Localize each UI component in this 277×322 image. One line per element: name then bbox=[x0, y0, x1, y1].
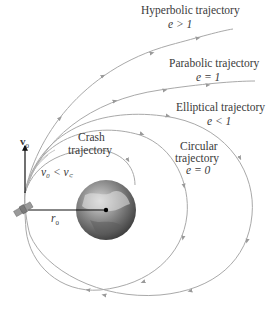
hyperbolic-label: Hyperbolic trajectory bbox=[141, 4, 240, 17]
elliptical-trajectory bbox=[25, 114, 253, 295]
elliptical-label: Elliptical trajectory bbox=[176, 101, 265, 114]
elliptical-condition: e < 1 bbox=[207, 115, 231, 128]
earth-center-dot bbox=[104, 208, 108, 212]
trajectory-curves bbox=[0, 0, 277, 322]
radius-label: r0 bbox=[51, 212, 59, 230]
parabolic-condition: e = 1 bbox=[196, 71, 220, 84]
orbital-trajectories-diagram: Hyperbolic trajectory e > 1 Parabolic tr… bbox=[0, 0, 277, 322]
hyperbolic-condition: e > 1 bbox=[168, 18, 192, 31]
crash-label-line2: trajectory bbox=[68, 144, 112, 157]
parabolic-label: Parabolic trajectory bbox=[169, 57, 259, 70]
velocity-label: v0 bbox=[20, 135, 29, 153]
circular-condition: e = 0 bbox=[186, 164, 210, 177]
crash-label-line1: Crash bbox=[78, 131, 105, 144]
velocity-condition: v₀ < v꜀ bbox=[41, 166, 73, 179]
satellite-icon bbox=[13, 201, 33, 217]
